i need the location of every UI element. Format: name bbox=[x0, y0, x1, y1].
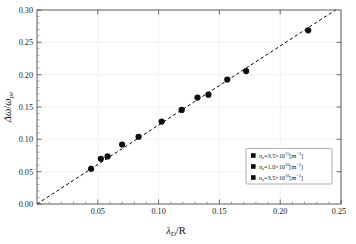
y-tick-label: 0.10 bbox=[19, 135, 33, 144]
legend-unit-close-1: ] bbox=[301, 152, 303, 159]
data-point bbox=[159, 118, 165, 124]
y-tick-label: 0.25 bbox=[19, 38, 33, 47]
y-tick-label: 0.30 bbox=[19, 6, 33, 15]
y-title-delta-omega: Δω bbox=[2, 109, 13, 124]
data-point bbox=[205, 92, 211, 98]
y-tick-label: 0.00 bbox=[19, 200, 33, 209]
x-tick-label: 0.25 bbox=[332, 207, 346, 216]
y-title-omega: ω bbox=[2, 98, 13, 105]
data-point bbox=[119, 141, 125, 147]
x-title-slash: /R bbox=[176, 225, 186, 236]
y-axis-title: Δω/ωpe bbox=[2, 92, 15, 124]
data-point bbox=[194, 95, 200, 101]
legend-marker-series-2 bbox=[251, 164, 256, 169]
y-title-subscript: pe bbox=[7, 92, 15, 100]
legend: ne=3.5×1015[m−3] ne=1.0×1016[m−3] ne=3.5… bbox=[246, 149, 332, 185]
data-point bbox=[88, 166, 94, 172]
x-tick-label: 0.10 bbox=[151, 207, 165, 216]
x-axis-title: λD/R bbox=[165, 225, 186, 238]
data-point bbox=[179, 107, 185, 113]
svg-text:Δω/ωpe: Δω/ωpe bbox=[2, 92, 15, 124]
data-point bbox=[305, 27, 311, 33]
x-axis-tick-labels: 0.05 0.10 0.15 0.20 0.25 bbox=[91, 207, 347, 216]
legend-unit-close-3: ] bbox=[301, 174, 303, 181]
data-point bbox=[104, 153, 110, 159]
x-tick-label: 0.05 bbox=[91, 207, 105, 216]
data-point bbox=[224, 76, 230, 82]
legend-unit-close-2: ] bbox=[301, 163, 303, 170]
legend-equals-1: =3.5×10 bbox=[264, 152, 285, 159]
y-axis-tick-labels: 0.00 0.05 0.10 0.15 0.20 0.25 0.30 bbox=[19, 6, 33, 209]
data-point bbox=[98, 156, 104, 162]
y-tick-label: 0.05 bbox=[19, 168, 33, 177]
data-point bbox=[243, 68, 249, 74]
x-tick-label: 0.15 bbox=[212, 207, 226, 216]
legend-equals-2: =1.0×10 bbox=[264, 163, 285, 170]
data-point bbox=[135, 134, 141, 140]
y-tick-label: 0.15 bbox=[19, 103, 33, 112]
legend-marker-series-1 bbox=[251, 153, 256, 158]
legend-marker-series-3 bbox=[251, 175, 256, 180]
legend-equals-3: =3.5×10 bbox=[264, 174, 285, 181]
svg-text:λD/R: λD/R bbox=[165, 225, 186, 238]
scatter-plot-figure: 0.05 0.10 0.15 0.20 0.25 bbox=[0, 0, 356, 244]
x-tick-label: 0.20 bbox=[273, 207, 287, 216]
y-tick-label: 0.20 bbox=[19, 71, 33, 80]
chart-root: 0.05 0.10 0.15 0.20 0.25 bbox=[0, 0, 356, 244]
